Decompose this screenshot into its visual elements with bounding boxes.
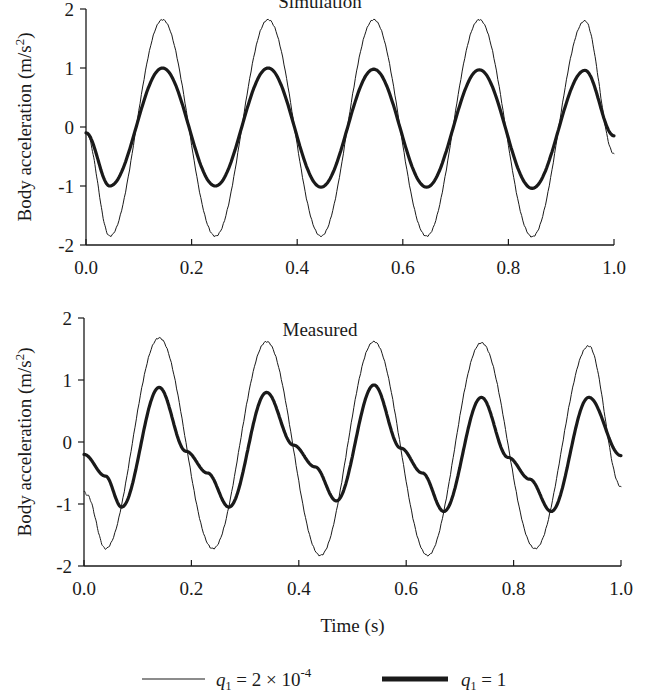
legend-label: q1 = 2 × 10-4	[216, 665, 312, 693]
legend-item: q1 = 2 × 10-4	[142, 665, 312, 693]
simulation-panel: 210-1-20.00.20.40.60.81.0Body accelerati…	[12, 0, 626, 278]
legend: q1 = 2 × 10-4q1 = 1	[142, 665, 506, 693]
x-tick-label: 0.6	[391, 257, 415, 278]
x-tick-label: 0.6	[394, 578, 418, 599]
y-tick-label: -2	[58, 235, 74, 256]
legend-item: q1 = 1	[382, 669, 506, 693]
y-tick-label: 1	[63, 370, 73, 391]
y-tick-label: -1	[58, 176, 74, 197]
x-tick-label: 0.4	[285, 257, 309, 278]
series-line-q1-1	[86, 68, 614, 188]
y-tick-label: -2	[56, 556, 72, 577]
legend-label: q1 = 1	[461, 669, 506, 693]
y-tick-label: 0	[63, 432, 73, 453]
x-tick-label: 0.0	[74, 257, 98, 278]
y-axis-title: Body acceleration (m/s2)	[12, 32, 36, 221]
y-tick-label: -1	[56, 494, 72, 515]
x-tick-label: 0.4	[287, 578, 311, 599]
panel-title: Simulation	[278, 0, 362, 12]
x-tick-label: 0.2	[180, 257, 204, 278]
series-line-q1-2e-4	[84, 338, 621, 556]
x-tick-label: 1.0	[609, 578, 633, 599]
y-axis-title: Body acceleration (m/s2)	[12, 347, 36, 536]
x-tick-label: 0.2	[180, 578, 204, 599]
y-tick-label: 2	[65, 0, 75, 20]
y-tick-label: 2	[63, 308, 73, 329]
panel-title: Measured	[283, 319, 358, 340]
x-tick-label: 0.8	[497, 257, 521, 278]
x-tick-label: 1.0	[602, 257, 626, 278]
x-axis-title: Time (s)	[320, 615, 384, 637]
series-line-q1-2e-4	[86, 19, 614, 237]
figure: 210-1-20.00.20.40.60.81.0Body accelerati…	[0, 0, 648, 699]
series-line-q1-1	[84, 385, 621, 511]
y-tick-label: 1	[65, 58, 75, 79]
y-tick-label: 0	[65, 117, 75, 138]
measured-panel: 210-1-20.00.20.40.60.81.0Body accelerati…	[12, 308, 633, 637]
x-tick-label: 0.8	[502, 578, 526, 599]
x-tick-label: 0.0	[72, 578, 96, 599]
